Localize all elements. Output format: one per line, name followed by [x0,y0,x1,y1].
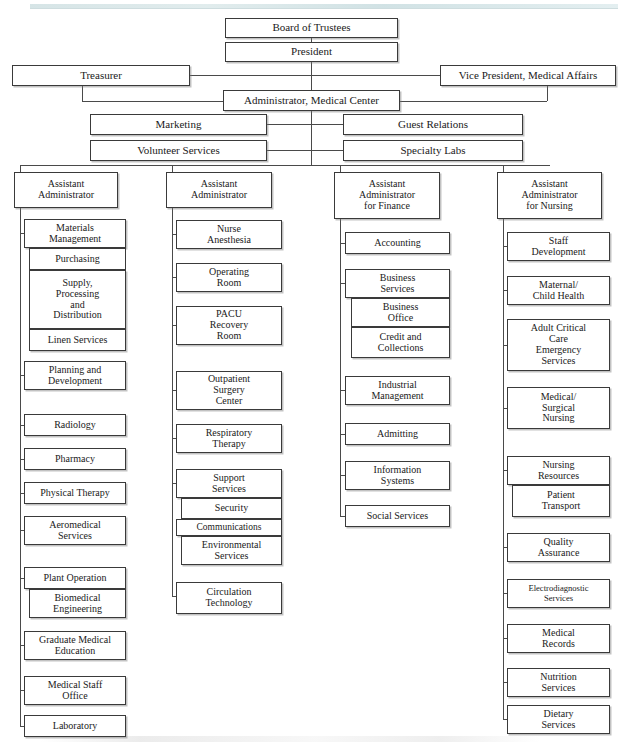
box-security[interactable]: Security [181,498,282,519]
box-label: Guest Relations [346,119,520,131]
box-label: Business Services [348,273,447,295]
box-label: Circulation Technology [179,587,279,609]
box-treasurer[interactable]: Treasurer [12,65,190,86]
box-purchasing[interactable]: Purchasing [29,248,126,270]
box-social-services[interactable]: Social Services [345,505,450,527]
box-label: Industrial Management [348,380,447,402]
box-marketing[interactable]: Marketing [90,114,267,135]
box-assistant-administrator-finance[interactable]: Assistant Administrator for Finance [334,172,440,219]
box-supply-processing-distribution[interactable]: Supply, Processing and Distribution [29,270,126,329]
box-business-office[interactable]: Business Office [351,298,450,327]
box-plant-operation[interactable]: Plant Operation [24,567,126,589]
spine-column-1 [20,208,21,726]
box-label: Quality Assurance [510,537,607,559]
box-circulation-technology[interactable]: Circulation Technology [176,582,282,614]
box-label: Adult Critical Care Emergency Services [510,323,607,366]
box-electrodiagnostic-services[interactable]: Electrodiagnostic Services [507,579,610,608]
box-label: Treasurer [15,70,187,82]
box-nursing-resources[interactable]: Nursing Resources [507,456,610,485]
box-accounting[interactable]: Accounting [345,232,450,254]
box-assistant-administrator-2[interactable]: Assistant Administrator [166,172,272,208]
box-radiology[interactable]: Radiology [24,414,126,436]
box-quality-assurance[interactable]: Quality Assurance [507,533,610,562]
box-label: Outpatient Surgery Center [179,374,279,406]
box-nurse-anesthesia[interactable]: Nurse Anesthesia [176,220,282,249]
connector-bus-drop-1 [20,165,21,172]
box-label: Volunteer Services [93,145,264,157]
box-label: Plant Operation [27,573,123,584]
box-business-services[interactable]: Business Services [345,269,450,298]
box-physical-therapy[interactable]: Physical Therapy [24,482,126,504]
box-label: Linen Services [32,335,123,346]
box-admitting[interactable]: Admitting [345,423,450,445]
box-patient-transport[interactable]: Patient Transport [512,485,610,517]
box-administrator-medical-center[interactable]: Administrator, Medical Center [223,90,400,111]
box-materials-management[interactable]: Materials Management [24,219,126,248]
box-specialty-labs[interactable]: Specialty Labs [343,140,523,161]
box-label: PACU Recovery Room [179,309,279,341]
box-operating-room[interactable]: Operating Room [176,263,282,292]
box-label: Vice President, Medical Affairs [443,70,613,82]
box-medical-records[interactable]: Medical Records [507,624,610,653]
box-industrial-management[interactable]: Industrial Management [345,376,450,405]
box-maternal-child-health[interactable]: Maternal/ Child Health [507,276,610,305]
box-label: Staff Development [510,236,607,258]
box-communications[interactable]: Communications [176,519,282,536]
box-label: Dietary Services [510,709,607,731]
box-label: Marketing [93,119,264,131]
box-label: Environmental Services [184,540,279,562]
box-information-systems[interactable]: Information Systems [345,461,450,490]
box-label: Radiology [27,420,123,431]
box-guest-relations[interactable]: Guest Relations [343,114,523,135]
box-label: Nurse Anesthesia [179,224,279,246]
box-credit-and-collections[interactable]: Credit and Collections [351,327,450,358]
box-label: Communications [179,522,279,532]
box-medical-surgical-nursing[interactable]: Medical/ Surgical Nursing [507,387,610,429]
org-chart-canvas: Board of Trustees President Treasurer Vi… [0,0,622,751]
box-label: Medical Records [510,628,607,650]
box-graduate-medical-education[interactable]: Graduate Medical Education [24,631,126,660]
connector-bus-drop-3 [340,165,341,172]
connector-bus-drop-4 [503,165,504,172]
box-label: Security [184,503,279,514]
spine-column-2 [172,208,173,596]
box-label: Maternal/ Child Health [510,280,607,302]
box-laboratory[interactable]: Laboratory [24,715,126,737]
box-dietary-services[interactable]: Dietary Services [507,705,610,734]
box-nutrition-services[interactable]: Nutrition Services [507,668,610,697]
box-label: Assistant Administrator for Finance [337,179,437,211]
connector-specialty-labs [311,150,343,151]
box-support-services[interactable]: Support Services [176,469,282,498]
connector-treasurer-elbow-v [82,85,83,101]
box-assistant-administrator-nursing[interactable]: Assistant Administrator for Nursing [497,172,602,219]
connector-marketing [267,124,311,125]
box-biomedical-engineering[interactable]: Biomedical Engineering [29,589,126,618]
box-vice-president-medical-affairs[interactable]: Vice President, Medical Affairs [440,65,616,86]
box-label: Business Office [354,302,447,324]
box-label: Specialty Labs [346,145,520,157]
box-environmental-services[interactable]: Environmental Services [181,536,282,565]
box-outpatient-surgery-center[interactable]: Outpatient Surgery Center [176,371,282,410]
box-planning-and-development[interactable]: Planning and Development [24,361,126,390]
box-respiratory-therapy[interactable]: Respiratory Therapy [176,424,282,453]
box-pharmacy[interactable]: Pharmacy [24,448,126,470]
box-label: Assistant Administrator for Nursing [500,179,599,211]
box-staff-development[interactable]: Staff Development [507,232,610,261]
box-assistant-administrator-1[interactable]: Assistant Administrator [14,172,118,208]
box-label: Pharmacy [27,454,123,465]
box-president[interactable]: President [225,42,398,62]
connector-vp-elbow-h [400,101,547,102]
box-aeromedical-services[interactable]: Aeromedical Services [24,516,126,545]
box-adult-critical-care-emergency-services[interactable]: Adult Critical Care Emergency Services [507,319,610,371]
connector-guest-relations [311,124,343,125]
box-pacu-recovery-room[interactable]: PACU Recovery Room [176,306,282,345]
connector-vp-elbow-v [547,85,548,101]
box-label: Respiratory Therapy [179,428,279,450]
connector-bus-drop-2 [172,165,173,172]
box-label: Accounting [348,238,447,249]
box-board-of-trustees[interactable]: Board of Trustees [225,18,398,38]
box-medical-staff-office[interactable]: Medical Staff Office [24,676,126,705]
box-linen-services[interactable]: Linen Services [29,329,126,351]
box-label: Nutrition Services [510,672,607,694]
box-volunteer-services[interactable]: Volunteer Services [90,140,267,161]
